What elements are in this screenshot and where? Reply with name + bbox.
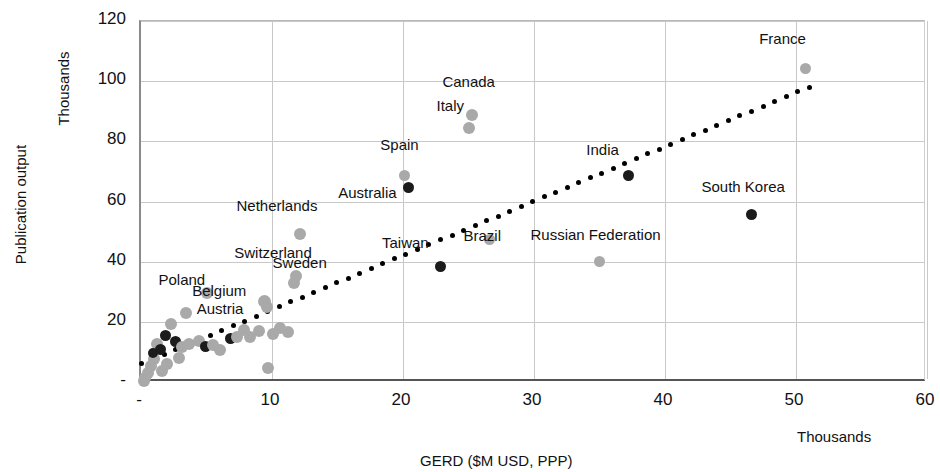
trendline-dot xyxy=(645,151,650,156)
y-axis-title: Publication output xyxy=(12,125,29,285)
trendline-dot xyxy=(403,252,408,257)
trendline-dot xyxy=(254,314,259,319)
trendline-dot xyxy=(496,214,501,219)
trendline-dot xyxy=(334,280,339,285)
data-point xyxy=(466,109,478,121)
x-axis-tick-label: 20 xyxy=(379,390,423,410)
trendline-dot xyxy=(565,185,570,190)
data-point xyxy=(800,63,811,74)
x-axis-tick-label: 30 xyxy=(510,390,554,410)
trendline-dot xyxy=(611,166,616,171)
data-point-label: Austria xyxy=(197,300,244,317)
data-point-label: Brazil xyxy=(463,227,501,244)
trendline-dot xyxy=(726,118,731,123)
data-point xyxy=(253,325,265,337)
trendline-dot xyxy=(795,89,800,94)
trendline-dot xyxy=(761,104,766,109)
trendline-dot xyxy=(737,113,742,118)
y-axis-tick-label: 20 xyxy=(78,310,126,330)
y-axis-tick-label: 80 xyxy=(78,129,126,149)
y-axis-tick-label: 40 xyxy=(78,250,126,270)
gridline-vertical xyxy=(403,21,404,379)
data-point-label: South Korea xyxy=(701,178,784,195)
trendline-dot xyxy=(450,233,455,238)
data-point xyxy=(403,182,414,193)
trendline-dot xyxy=(346,276,351,281)
data-point xyxy=(282,326,294,338)
trendline-dot xyxy=(668,142,673,147)
trendline-dot xyxy=(588,175,593,180)
trendline-dot xyxy=(784,94,789,99)
data-point xyxy=(290,270,302,282)
trendline-dot xyxy=(703,128,708,133)
trendline-dot xyxy=(380,261,385,266)
trendline-dot xyxy=(323,285,328,290)
gridline-horizontal xyxy=(141,262,924,263)
trendline-dot xyxy=(576,180,581,185)
gridline-vertical xyxy=(927,21,928,379)
x-axis-tick-label: 60 xyxy=(903,390,940,410)
data-point-label: Netherlands xyxy=(237,197,318,214)
data-point-label: Taiwan xyxy=(382,234,429,251)
data-point xyxy=(148,348,158,358)
trendline-dot xyxy=(807,85,812,90)
trendline-dot xyxy=(634,156,639,161)
x-axis-tick-label: 10 xyxy=(248,390,292,410)
data-point xyxy=(165,318,177,330)
trendline-dot xyxy=(519,204,524,209)
trendline-dot xyxy=(438,237,443,242)
trendline-dot xyxy=(714,123,719,128)
gridline-horizontal xyxy=(141,81,924,82)
trendline-dot xyxy=(139,361,144,366)
trendline-dot xyxy=(772,99,777,104)
gridline-vertical xyxy=(665,21,666,379)
trendline-dot xyxy=(277,304,282,309)
data-point xyxy=(294,228,306,240)
y-axis-unit-label: Thousands xyxy=(55,34,72,144)
y-axis-tick-label: 120 xyxy=(78,9,126,29)
trendline-dot xyxy=(622,161,627,166)
data-point-label: Sweden xyxy=(273,254,327,271)
data-point xyxy=(173,352,185,364)
trendline-dot xyxy=(542,194,547,199)
trendline-dot xyxy=(657,147,662,152)
trendline-dot xyxy=(484,218,489,223)
data-point xyxy=(623,170,634,181)
data-point-label: Canada xyxy=(442,73,495,90)
y-axis-tick-label: 60 xyxy=(78,190,126,210)
gridline-horizontal xyxy=(141,21,924,22)
y-axis-tick-label: - xyxy=(78,370,126,390)
trendline-dot xyxy=(553,190,558,195)
data-point-label: Russian Federation xyxy=(531,226,661,243)
x-axis-tick-label: - xyxy=(117,390,161,410)
data-point xyxy=(261,301,273,313)
data-point-label: India xyxy=(586,141,619,158)
gridline-horizontal xyxy=(141,141,924,142)
data-point xyxy=(594,256,605,267)
x-axis-unit-label: Thousands xyxy=(797,428,871,445)
trendline-dot xyxy=(369,266,374,271)
gridline-horizontal xyxy=(141,322,924,323)
data-point xyxy=(214,344,226,356)
trendline-dot xyxy=(242,319,247,324)
trendline-dot xyxy=(208,333,213,338)
trendline-dot xyxy=(311,290,316,295)
data-point xyxy=(180,307,192,319)
data-point xyxy=(161,358,173,370)
trendline-dot xyxy=(231,323,236,328)
trendline-dot xyxy=(749,109,754,114)
y-axis-tick-label: 100 xyxy=(78,69,126,89)
data-point xyxy=(463,122,475,134)
data-point xyxy=(399,170,410,181)
trendline-dot xyxy=(219,328,224,333)
trendline-dot xyxy=(300,295,305,300)
data-point-label: Italy xyxy=(437,97,465,114)
data-point-label: Spain xyxy=(380,136,418,153)
data-point xyxy=(746,209,757,220)
data-point xyxy=(138,375,150,387)
data-point-label: Australia xyxy=(338,184,396,201)
x-axis-title: GERD ($M USD, PPP) xyxy=(420,452,573,469)
trendline-dot xyxy=(599,171,604,176)
scatter-chart: Publication output Thousands GERD ($M US… xyxy=(0,0,940,472)
data-point-label: France xyxy=(759,30,806,47)
